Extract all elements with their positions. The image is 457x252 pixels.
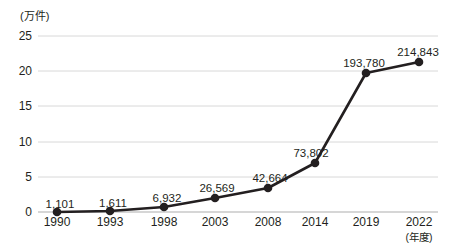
series-line	[57, 62, 419, 212]
data-label-2019: 193,780	[343, 57, 385, 69]
data-label-2008: 42,664	[252, 172, 287, 184]
data-label-1998: 6,932	[153, 192, 182, 204]
data-label-1993: 1,611	[99, 197, 127, 209]
x-tick-label-2003: 2003	[188, 216, 242, 229]
data-point-2003	[211, 194, 220, 203]
data-label-2003: 26,569	[199, 182, 234, 194]
x-tick-label-1990: 1990	[30, 216, 84, 229]
x-tick-label-2008: 2008	[241, 216, 295, 229]
x-tick-label-1998: 1998	[137, 216, 191, 229]
x-tick-label-2014: 2014	[288, 216, 342, 229]
x-tick-label-2019: 2019	[339, 216, 393, 229]
data-label-2022: 214,843	[397, 46, 439, 58]
data-label-1990: 1,101	[46, 198, 75, 210]
data-point-2019	[362, 69, 371, 78]
data-point-2008	[264, 184, 273, 193]
line-chart: (万件) 25 20 15 10 5 0 1,101 1,611 6,932	[0, 0, 457, 252]
x-tick-label-1993: 1993	[83, 216, 137, 229]
data-point-2014	[311, 159, 320, 168]
data-label-2014: 73,802	[293, 147, 328, 159]
data-point-2022	[415, 58, 424, 67]
x-axis-unit-label: (年度)	[392, 231, 446, 244]
x-tick-label-2022: 2022	[392, 216, 446, 229]
